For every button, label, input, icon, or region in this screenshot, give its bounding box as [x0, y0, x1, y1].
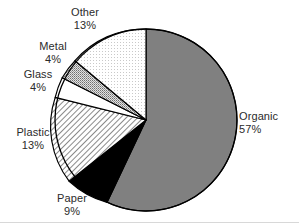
- pie-label-glass: Glass 4%: [12, 68, 64, 93]
- pie-label-other-name: Other: [57, 6, 113, 19]
- pie-label-plastic: Plastic 13%: [4, 126, 62, 151]
- pie-label-other: Other 13%: [57, 6, 113, 31]
- bottom-divider: [0, 222, 299, 223]
- pie-label-other-percent: 13%: [57, 19, 113, 32]
- pie-label-organic: Organic 57%: [239, 110, 297, 135]
- pie-label-organic-percent: 57%: [239, 123, 297, 136]
- pie-label-metal: Metal 4%: [27, 40, 79, 65]
- pie-label-metal-name: Metal: [27, 40, 79, 53]
- pie-label-organic-name: Organic: [239, 110, 297, 123]
- pie-label-glass-percent: 4%: [12, 81, 64, 94]
- pie-label-glass-name: Glass: [12, 68, 64, 81]
- pie-label-plastic-name: Plastic: [4, 126, 62, 139]
- pie-label-metal-percent: 4%: [27, 53, 79, 66]
- pie-label-plastic-percent: 13%: [4, 139, 62, 152]
- pie-label-paper: Paper 9%: [46, 192, 98, 217]
- pie-label-paper-name: Paper: [46, 192, 98, 205]
- pie-label-paper-percent: 9%: [46, 205, 98, 218]
- pie-chart: Other 13% Metal 4% Glass 4% Plastic 13% …: [0, 0, 299, 223]
